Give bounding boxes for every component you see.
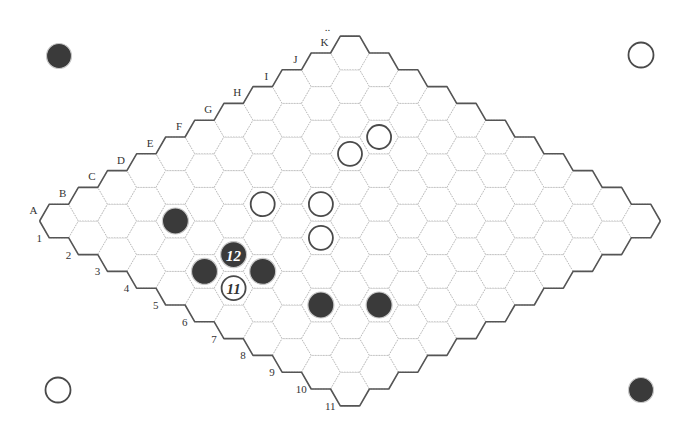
stone-black-B5 xyxy=(192,258,218,284)
row-label-8: 8 xyxy=(240,349,246,361)
column-label-G: G xyxy=(204,103,212,115)
white-stone-icon xyxy=(251,192,275,216)
row-label-3: 3 xyxy=(95,265,101,277)
row-label-11: 11 xyxy=(325,400,336,412)
stone-white-E6 xyxy=(309,226,333,250)
stone-black-C5: 12 xyxy=(221,242,247,268)
white-stone-icon xyxy=(338,142,362,166)
column-label-K: K xyxy=(321,36,329,48)
top-marker: .. xyxy=(325,21,331,33)
corner-bottom-left-white-stone-icon xyxy=(46,378,71,403)
white-stone-icon xyxy=(309,192,333,216)
stone-white-E4 xyxy=(251,192,275,216)
hex-board: ABCDEFGHIJK1234567891011 1211 .. xyxy=(0,0,688,434)
stone-white-B6: 11 xyxy=(222,276,246,300)
column-label-D: D xyxy=(117,154,125,166)
black-stone-icon xyxy=(162,208,188,234)
move-number: 12 xyxy=(226,248,242,264)
white-stone-icon xyxy=(309,226,333,250)
row-label-4: 4 xyxy=(124,282,130,294)
column-label-F: F xyxy=(176,120,182,132)
white-stone-icon xyxy=(367,125,391,149)
row-label-6: 6 xyxy=(182,316,188,328)
corner-bottom-right-black-stone-icon xyxy=(629,378,654,403)
column-label-H: H xyxy=(233,86,241,98)
row-label-10: 10 xyxy=(296,383,308,395)
column-label-A: A xyxy=(30,204,38,216)
black-stone-icon xyxy=(250,258,276,284)
stone-white-H4 xyxy=(338,142,362,166)
stone-black-C3 xyxy=(162,208,188,234)
column-label-E: E xyxy=(147,137,154,149)
column-label-I: I xyxy=(265,70,269,82)
black-stone-icon xyxy=(308,292,334,318)
column-label-B: B xyxy=(59,187,66,199)
move-number: 11 xyxy=(227,281,241,297)
black-stone-icon xyxy=(366,292,392,318)
hex-board-svg: ABCDEFGHIJK1234567891011 1211 .. xyxy=(0,0,688,434)
row-label-7: 7 xyxy=(211,333,217,345)
corner-top-right-white-stone-icon xyxy=(629,43,654,68)
column-label-J: J xyxy=(293,53,298,65)
stone-white-I4 xyxy=(367,125,391,149)
board-cells xyxy=(40,36,661,406)
row-label-9: 9 xyxy=(269,366,275,378)
row-label-5: 5 xyxy=(153,299,159,311)
black-stone-icon xyxy=(192,258,218,284)
column-label-C: C xyxy=(88,170,95,182)
row-label-1: 1 xyxy=(37,232,43,244)
stone-white-F5 xyxy=(309,192,333,216)
row-label-2: 2 xyxy=(66,249,72,261)
stone-black-D9 xyxy=(366,292,392,318)
stone-black-C8 xyxy=(308,292,334,318)
stone-black-C6 xyxy=(250,258,276,284)
corner-top-left-black-stone-icon xyxy=(47,44,72,69)
